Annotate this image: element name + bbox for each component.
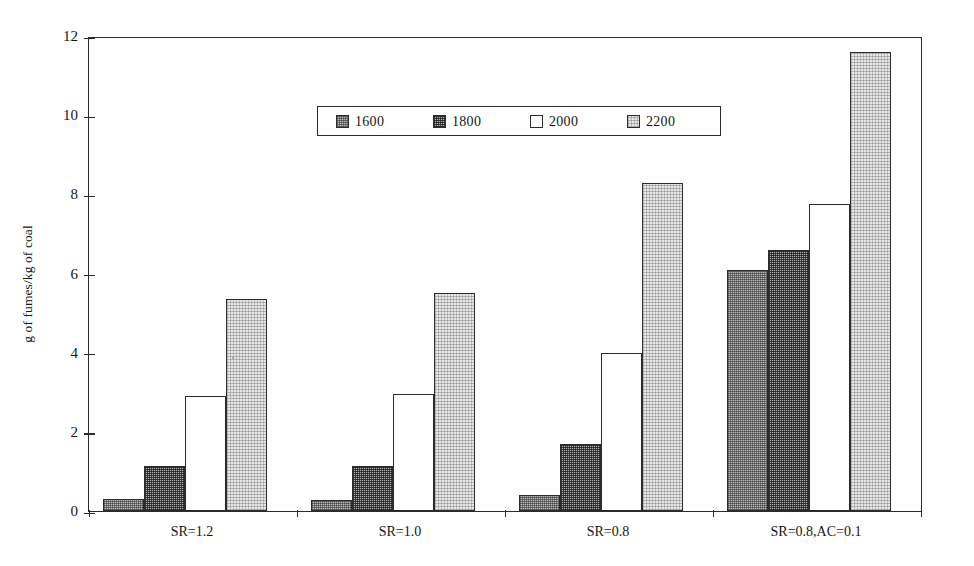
y-tick-label: 2 [71, 424, 79, 441]
bar-group-sr-0-8-ac-0-1 [713, 38, 921, 511]
x-category-label-3: SR=0.8,AC=0.1 [712, 524, 920, 540]
x-tick-mark [297, 510, 298, 517]
y-tick-label: 10 [63, 107, 78, 124]
legend-item-1600: 1600 [336, 113, 384, 130]
bar-sr-0-8-ac-0-1-1800 [768, 250, 809, 511]
bar-group-sr-1-2 [89, 38, 297, 511]
legend: 1600 1800 2000 2200 [317, 106, 721, 136]
bar-sr-0-8-1600 [519, 495, 560, 511]
legend-item-2000: 2000 [530, 113, 578, 130]
y-tick-label: 8 [71, 186, 79, 203]
x-tick-mark [713, 510, 714, 517]
scan-speckle [232, 357, 234, 359]
plot-area: 0 2 4 6 8 10 12 [88, 37, 922, 512]
legend-label-1800: 1800 [452, 114, 481, 130]
bar-sr-1-2-1800 [144, 466, 185, 512]
x-category-label-2: SR=0.8 [504, 524, 712, 540]
x-tick-mark [921, 510, 922, 517]
bar-sr-1-2-1600 [103, 499, 144, 511]
bar-sr-1-2-2200 [226, 299, 267, 511]
bar-sr-0-8-2200 [642, 183, 683, 512]
bar-sr-0-8-ac-0-1-2200 [850, 52, 891, 511]
legend-swatch-1600-icon [336, 115, 349, 128]
legend-swatch-1800-icon [433, 115, 446, 128]
bar-sr-1-2-2000 [185, 396, 226, 511]
legend-swatch-2000-icon [530, 115, 543, 128]
bar-chart-figure: g of fumes/kg of coal 0 2 4 6 8 10 [0, 0, 974, 566]
legend-label-2200: 2200 [646, 114, 675, 130]
legend-swatch-2200-icon [627, 115, 640, 128]
bar-sr-0-8-ac-0-1-1600 [727, 270, 768, 512]
bar-sr-1-0-2000 [393, 394, 434, 511]
bar-sr-0-8-ac-0-1-2000 [809, 204, 850, 511]
bar-sr-0-8-2000 [601, 353, 642, 511]
y-tick-label: 4 [71, 345, 79, 362]
bar-sr-0-8-1800 [560, 444, 601, 511]
bar-sr-1-0-1600 [311, 500, 352, 511]
y-tick-label: 0 [71, 503, 79, 520]
y-tick-label: 12 [63, 28, 78, 45]
x-tick-mark [89, 510, 90, 517]
bar-sr-1-0-2200 [434, 293, 475, 511]
y-tick-label: 6 [71, 266, 79, 283]
legend-label-1600: 1600 [355, 114, 384, 130]
legend-item-1800: 1800 [433, 113, 481, 130]
bar-sr-1-0-1800 [352, 466, 393, 512]
legend-item-2200: 2200 [627, 113, 675, 130]
x-category-label-0: SR=1.2 [88, 524, 296, 540]
x-category-label-1: SR=1.0 [296, 524, 504, 540]
y-axis-title: g of fumes/kg of coal [20, 184, 36, 384]
legend-label-2000: 2000 [549, 114, 578, 130]
x-tick-mark [505, 510, 506, 517]
